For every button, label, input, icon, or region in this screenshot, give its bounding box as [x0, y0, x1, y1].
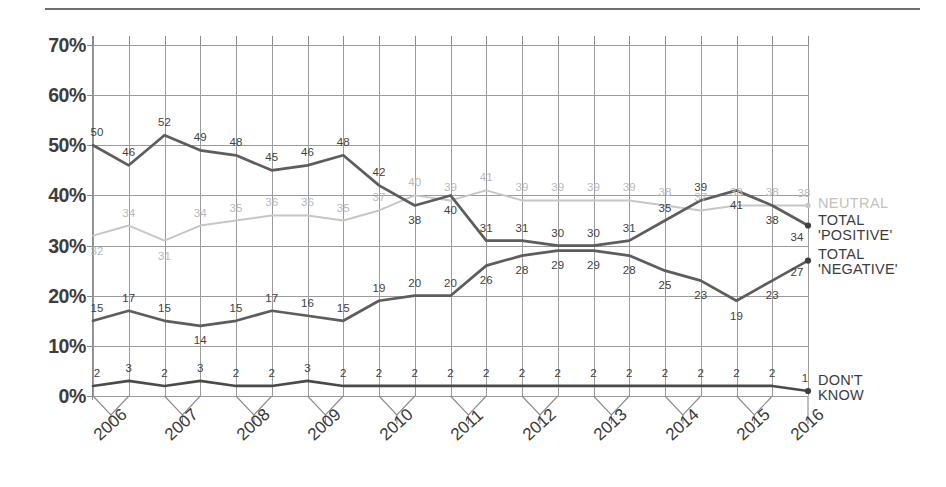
legend-item-neutral: NEUTRAL	[818, 196, 888, 212]
chart-page: 70%60%50%40%30%20%10%0% 3234313435363635…	[0, 0, 946, 487]
legend-item-dontknow-line2: KNOW	[818, 388, 864, 404]
legend-item-negative-line2: 'NEGATIVE'	[818, 262, 898, 278]
legend-item-positive-line2: 'POSITIVE'	[818, 228, 892, 244]
x-axis: 2006200720082009201020112012201320142015…	[0, 0, 946, 487]
